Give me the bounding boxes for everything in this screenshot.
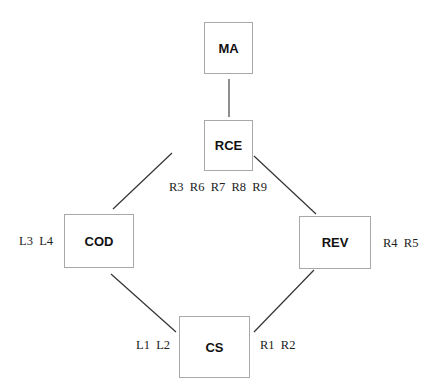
node-cod: COD xyxy=(64,214,134,268)
edge-rce-cod xyxy=(113,153,172,209)
node-rev-label: REV xyxy=(322,235,349,250)
node-cs-label: CS xyxy=(205,340,223,355)
node-rce: RCE xyxy=(204,120,253,171)
node-rev: REV xyxy=(299,216,371,269)
edge-rev-cs xyxy=(254,270,314,332)
annotation-rce: R3 R6 R7 R8 R9 xyxy=(169,180,267,195)
annotation-rev: R4 R5 xyxy=(383,236,418,251)
node-ma-label: MA xyxy=(218,41,238,56)
annotation-cs-right: R1 R2 xyxy=(260,338,295,353)
node-cod-label: COD xyxy=(85,234,114,249)
annotation-cs-left: L1 L2 xyxy=(136,338,170,353)
node-ma: MA xyxy=(204,22,253,74)
edge-cod-cs xyxy=(111,274,176,332)
node-rce-label: RCE xyxy=(215,138,242,153)
annotation-cod: L3 L4 xyxy=(19,234,53,249)
node-cs: CS xyxy=(179,316,250,378)
